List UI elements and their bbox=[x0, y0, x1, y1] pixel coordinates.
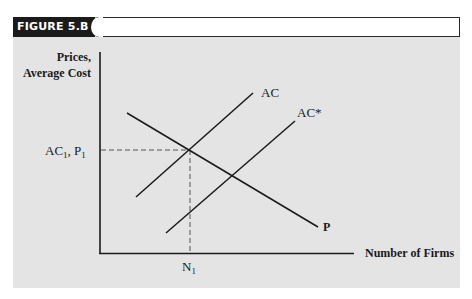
price-line bbox=[127, 113, 318, 227]
ac-star-label: AC* bbox=[297, 105, 322, 120]
x-marker-label: N1 bbox=[182, 259, 196, 276]
y-axis-label-line1: Prices, bbox=[57, 50, 91, 64]
chart-svg: Prices, Average Cost Number of Firms AC … bbox=[0, 0, 472, 299]
x-axis-label: Number of Firms bbox=[365, 246, 454, 260]
ac-star-line bbox=[166, 121, 295, 233]
y-marker-label: AC1, P1 bbox=[45, 143, 86, 160]
ac-label: AC bbox=[261, 85, 279, 100]
ac-line bbox=[136, 93, 253, 197]
y-axis-label-line2: Average Cost bbox=[23, 66, 91, 80]
p-label: P bbox=[323, 220, 330, 234]
